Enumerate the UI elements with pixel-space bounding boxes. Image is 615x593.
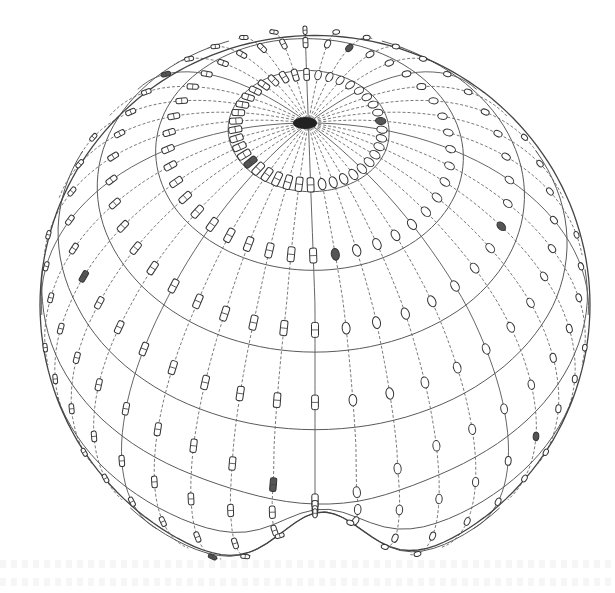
scan-bleed-through (0, 560, 615, 568)
pole-marker (293, 117, 317, 129)
rectangle-glyph-icon (249, 85, 263, 95)
rectangle-glyph-icon (200, 375, 210, 390)
rectangle-glyph-icon (108, 197, 121, 209)
rectangle-glyph-icon (307, 178, 314, 193)
rectangle-glyph-icon (45, 230, 51, 239)
rectangle-glyph-icon (190, 439, 198, 453)
ellipse-glyph-icon (384, 59, 394, 67)
meridian-line (308, 123, 439, 555)
rectangle-glyph-icon (287, 247, 295, 262)
ellipse-glyph-icon (381, 544, 389, 550)
ellipse-glyph-icon (391, 533, 399, 543)
ellipse-glyph-icon (330, 248, 340, 261)
sphere-vector-field-diagram (0, 0, 615, 593)
rectangle-glyph-icon (159, 516, 167, 527)
rectangle-glyph-icon (78, 270, 89, 283)
ellipse-glyph-icon (533, 432, 539, 441)
rectangle-glyph-icon (241, 93, 255, 102)
rectangle-glyph-icon (283, 174, 294, 190)
rectangle-glyph-icon (91, 431, 97, 442)
meridian-line (308, 72, 476, 123)
rectangle-glyph-icon (105, 174, 118, 185)
rectangle-glyph-icon (184, 56, 194, 62)
ellipse-glyph-icon (555, 405, 561, 413)
rectangle-glyph-icon (43, 343, 48, 352)
meridian-line (308, 123, 508, 529)
ellipse-glyph-icon (437, 112, 447, 120)
rectangle-glyph-icon (295, 177, 303, 192)
rectangle-glyph-icon (269, 506, 275, 519)
rectangle-glyph-icon (269, 29, 278, 34)
rectangle-glyph-icon (69, 242, 80, 254)
rectangle-glyph-icon (57, 323, 65, 335)
rectangle-glyph-icon (67, 186, 77, 197)
rectangle-glyph-icon (303, 37, 308, 47)
ellipse-glyph-icon (428, 531, 436, 541)
ellipse-glyph-icon (565, 324, 573, 334)
wireframe-sphere-figure (0, 0, 615, 593)
rectangle-glyph-icon (313, 509, 317, 518)
rectangle-glyph-icon (94, 296, 105, 310)
ellipse-glyph-icon (539, 271, 549, 282)
rectangle-glyph-icon (119, 455, 125, 466)
ellipse-glyph-icon (493, 129, 503, 138)
meridian-line (308, 123, 558, 463)
ellipse-glyph-icon (393, 463, 401, 474)
rectangle-glyph-icon (193, 531, 201, 542)
ellipse-glyph-icon (396, 505, 403, 515)
ellipse-glyph-icon (365, 50, 375, 59)
ellipse-glyph-icon (577, 262, 584, 271)
ellipse-glyph-icon (572, 375, 578, 383)
rectangle-glyph-icon (229, 118, 242, 125)
rectangle-glyph-icon (304, 68, 310, 80)
rectangle-glyph-icon (73, 352, 81, 364)
ellipse-glyph-icon (344, 80, 356, 91)
rectangle-glyph-icon (53, 374, 58, 384)
ellipse-glyph-icon (406, 218, 419, 232)
meridian-line (308, 86, 507, 123)
pole-icon (293, 117, 317, 129)
ellipse-glyph-icon (372, 109, 382, 116)
ellipse-glyph-icon (449, 279, 461, 292)
ellipse-glyph-icon (338, 172, 350, 186)
ellipse-glyph-icon (521, 474, 529, 483)
rectangle-glyph-icon (47, 292, 54, 303)
ellipse-glyph-icon (426, 294, 438, 308)
ellipse-glyph-icon (324, 71, 334, 82)
ellipse-glyph-icon (501, 152, 512, 162)
rectangle-glyph-icon (163, 160, 177, 171)
ellipse-glyph-icon (494, 497, 502, 506)
rectangle-glyph-icon (228, 504, 234, 516)
rectangle-glyph-icon (187, 84, 198, 90)
rectangle-glyph-icon (176, 98, 188, 104)
rectangle-glyph-icon (65, 214, 75, 225)
rectangle-glyph-icon (107, 151, 119, 161)
rectangle-glyph-icon (116, 220, 129, 233)
ellipse-glyph-icon (317, 178, 327, 191)
rectangle-glyph-icon (236, 50, 248, 59)
rectangle-glyph-icon (249, 315, 259, 331)
ellipse-glyph-icon (368, 100, 379, 108)
rectangle-glyph-icon (122, 402, 130, 415)
rectangle-glyph-icon (167, 112, 180, 120)
ellipse-glyph-icon (352, 486, 361, 498)
rectangle-glyph-icon (201, 70, 213, 77)
ellipse-glyph-icon (573, 231, 580, 239)
ellipse-glyph-icon (549, 353, 557, 363)
ellipse-glyph-icon (430, 191, 443, 204)
rectangle-glyph-icon (75, 159, 84, 169)
ellipse-glyph-icon (452, 361, 462, 374)
ellipse-glyph-icon (439, 176, 452, 188)
ellipse-glyph-icon (328, 176, 339, 189)
rectangle-glyph-icon (228, 125, 242, 134)
rectangle-glyph-icon (257, 43, 268, 54)
rectangle-glyph-icon (271, 171, 283, 187)
rectangle-glyph-icon (192, 293, 204, 309)
ellipse-glyph-icon (371, 316, 381, 329)
ellipse-glyph-icon (443, 128, 454, 137)
rectangle-glyph-icon (95, 378, 103, 391)
rectangle-glyph-icon (273, 393, 281, 408)
ellipse-glyph-icon (332, 29, 339, 35)
rectangle-glyph-icon (231, 538, 239, 550)
rectangle-glyph-icon (139, 342, 150, 357)
